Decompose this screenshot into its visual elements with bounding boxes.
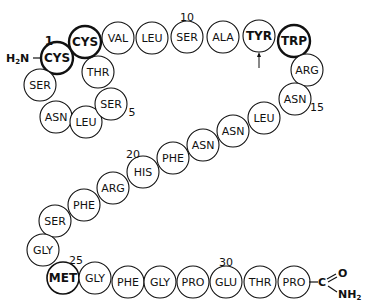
residue-gly-24: GLY: [27, 234, 59, 266]
position-number: 10: [180, 11, 194, 24]
residue-label: GLY: [33, 244, 53, 257]
residue-label: CYS: [72, 35, 98, 49]
n-terminus-label: H2N: [6, 52, 29, 66]
residue-label: CYS: [44, 51, 70, 65]
residue-label: ALA: [212, 31, 234, 44]
residue-phe-27: PHE: [112, 266, 144, 298]
c-terminus-carbon: C: [318, 276, 326, 289]
residue-label: ARG: [295, 64, 319, 77]
residue-his-20: HIS20: [126, 148, 159, 189]
residue-label: PHE: [117, 276, 139, 289]
residue-label: THR: [248, 276, 272, 289]
position-number: 15: [310, 101, 324, 114]
residue-pro-29: PRO: [177, 266, 209, 298]
residue-asn-3: ASN: [40, 101, 72, 133]
residue-label: PHE: [162, 152, 184, 165]
residue-phe-22: PHE: [68, 189, 100, 221]
residue-gly-26: GLY: [79, 262, 111, 294]
c-terminus-amide: NH2: [338, 288, 361, 302]
position-number: 1: [45, 34, 53, 48]
residue-asn-15: ASN15: [279, 83, 324, 115]
residue-leu-9: LEU: [136, 22, 168, 54]
residue-label: SER: [100, 98, 122, 111]
residue-label: HIS: [134, 166, 153, 179]
residue-label: ASN: [192, 139, 215, 152]
residue-trp-13: TRP: [278, 25, 310, 57]
residue-label: PRO: [283, 276, 306, 289]
residue-label: ASN: [284, 93, 307, 106]
residue-thr-31: THR: [244, 266, 276, 298]
residue-label: GLY: [150, 276, 170, 289]
residue-label: THR: [86, 66, 110, 79]
residue-cys-7: CYS: [69, 26, 101, 58]
residue-arg-21: ARG: [97, 172, 129, 204]
residue-label: ASN: [45, 111, 68, 124]
residue-ser-2: SER: [24, 69, 56, 101]
residue-ala-11: ALA: [207, 21, 239, 53]
residue-label: TRP: [281, 34, 307, 48]
residue-thr-6: THR: [82, 56, 114, 88]
residue-label: SER: [44, 215, 66, 228]
residue-label: MET: [49, 271, 78, 285]
residue-ser-23: SER: [39, 205, 71, 237]
residue-label: LEU: [75, 116, 96, 129]
residue-chain: CYS1SERASNLEUSER5THRCYSVALLEUSER10ALATYR…: [24, 11, 324, 299]
residue-ser-5: SER5: [95, 88, 136, 120]
c-terminus: C O NH2: [309, 267, 361, 302]
residue-label: SER: [29, 79, 51, 92]
residue-asn-17: ASN: [217, 115, 249, 147]
residue-tyr-12: TYR: [243, 20, 275, 52]
residue-label: ASN: [222, 125, 245, 138]
residue-glu-30: GLU30: [210, 256, 242, 299]
residue-val-8: VAL: [102, 22, 134, 54]
residue-asn-18: ASN: [187, 129, 219, 161]
tyr-arrow-icon: [257, 52, 261, 68]
residue-pro-32: PRO: [278, 266, 310, 298]
residue-label: PRO: [182, 276, 205, 289]
residue-leu-16: LEU: [248, 102, 280, 134]
c-terminus-oxygen: O: [338, 267, 347, 280]
position-number: 25: [69, 254, 83, 267]
residue-label: GLU: [215, 276, 237, 289]
position-number: 30: [219, 256, 233, 269]
n-terminus: H2N: [6, 52, 42, 66]
position-number: 5: [129, 106, 136, 119]
residue-phe-19: PHE: [157, 142, 189, 174]
position-number: 20: [126, 148, 140, 161]
residue-ser-10: SER10: [171, 11, 203, 54]
residue-label: TYR: [246, 29, 272, 43]
residue-label: PHE: [73, 199, 95, 212]
residue-label: ARG: [101, 182, 125, 195]
residue-label: LEU: [141, 32, 162, 45]
residue-label: GLY: [85, 272, 105, 285]
residue-arg-14: ARG: [291, 54, 323, 86]
residue-gly-28: GLY: [144, 266, 176, 298]
peptide-sequence-diagram: H2N CYS1SERASNLEUSER5THRCYSVALLEUSER10AL…: [0, 0, 377, 308]
residue-label: VAL: [108, 32, 129, 45]
residue-label: LEU: [253, 112, 274, 125]
residue-label: SER: [176, 31, 198, 44]
